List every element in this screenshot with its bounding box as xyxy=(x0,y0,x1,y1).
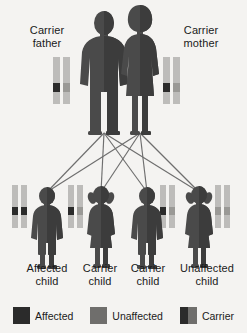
legend-item-unaffected: Unaffected xyxy=(90,307,163,324)
legend-swatch-carrier xyxy=(180,307,197,324)
legend-label-affected: Affected xyxy=(35,310,73,322)
legend-swatch-affected xyxy=(13,307,30,324)
legend: Affected Unaffected Carrier xyxy=(0,298,247,333)
legend-item-affected: Affected xyxy=(13,307,73,324)
label-unaffected-child: Unaffected child xyxy=(168,262,246,287)
label-unaffected-child-line1: Unaffected xyxy=(180,262,234,274)
inheritance-diagram: Carrier father xyxy=(0,0,247,333)
label-unaffected-child-line2: child xyxy=(168,275,246,288)
legend-label-unaffected: Unaffected xyxy=(112,310,163,322)
legend-label-carrier: Carrier xyxy=(202,310,234,322)
legend-item-carrier: Carrier xyxy=(180,307,234,324)
legend-swatch-carrier-light xyxy=(188,307,197,324)
legend-swatch-carrier-dark xyxy=(180,307,189,324)
legend-swatch-unaffected xyxy=(90,307,107,324)
